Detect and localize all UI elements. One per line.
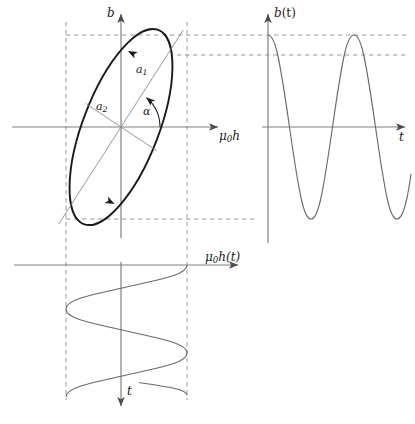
figure-canvas: b μ0h a1 a2 α b(t) t μ0h(t) t [0, 0, 415, 424]
h-of-t-time-axis-label: t [127, 385, 132, 397]
semi-minor-axis-label: a2 [96, 101, 108, 114]
b-of-t-time-axis-label: t [399, 131, 404, 143]
direction-arrow-lower [105, 197, 116, 208]
b-axis-label: b [107, 7, 115, 19]
b-of-t-axes [262, 14, 405, 243]
h-of-t-waveform [66, 265, 187, 397]
h-of-t-axes [14, 262, 238, 406]
construction-lines [66, 22, 408, 400]
alpha-angle-label: α [143, 106, 150, 117]
b-of-t-axis-label: b(t) [274, 7, 296, 19]
mu0h-of-t-axis-label: μ0h(t) [205, 251, 240, 265]
direction-arrow-upper [126, 48, 137, 59]
mu0h-axis-label: μ0h [219, 130, 240, 144]
semi-major-axis-label: a1 [136, 64, 148, 77]
hysteresis-figure-svg [0, 0, 415, 424]
h-of-t-waveform-tail [139, 383, 187, 396]
